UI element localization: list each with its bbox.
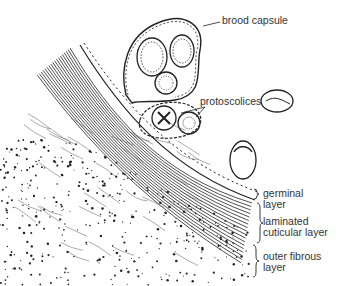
cell-dot <box>16 148 18 150</box>
host-tissue-cells <box>0 139 250 286</box>
cell-dot <box>112 245 114 247</box>
cell-dot <box>186 273 188 275</box>
cell-dot <box>157 228 159 230</box>
cell-dot <box>73 169 74 170</box>
cell-dot <box>186 239 188 241</box>
cell-dot <box>197 243 198 244</box>
cell-dot <box>87 189 90 192</box>
cell-dot <box>1 200 3 202</box>
cell-dot <box>213 213 215 215</box>
cell-dot <box>174 221 176 223</box>
cell-dot <box>39 221 41 223</box>
cell-dot <box>6 218 7 219</box>
cell-dot <box>213 272 215 274</box>
cell-dot <box>11 251 13 253</box>
cell-dot <box>166 191 168 193</box>
cell-dot <box>22 191 23 192</box>
protoscolices-leader <box>181 107 205 117</box>
cell-dot <box>0 224 1 225</box>
cell-dot <box>191 280 193 282</box>
cell-dot <box>6 209 8 211</box>
cell-dot <box>41 260 43 262</box>
cell-dot <box>53 196 55 198</box>
cell-dot <box>19 267 21 269</box>
cell-dot <box>199 218 201 220</box>
cell-dot <box>115 176 117 178</box>
cell-dot <box>104 222 105 223</box>
cell-dot <box>240 255 242 257</box>
cell-dot <box>56 183 58 185</box>
cell-dot <box>91 170 92 171</box>
cell-dot <box>186 235 188 237</box>
cell-dot <box>69 211 70 212</box>
cell-dot <box>36 212 37 213</box>
cell-dot <box>7 276 8 277</box>
cell-dot <box>13 267 16 270</box>
cell-dot <box>122 173 124 175</box>
cell-dot <box>157 193 158 194</box>
cell-dot <box>43 228 45 230</box>
cell-dot <box>202 217 203 218</box>
cell-dot <box>146 252 147 253</box>
cell-dot <box>86 244 87 245</box>
cell-dot <box>69 164 72 167</box>
cell-dot <box>188 205 190 207</box>
cell-dot <box>130 172 131 173</box>
cell-dot <box>125 250 127 252</box>
cell-dot <box>151 236 152 237</box>
cell-dot <box>27 183 28 184</box>
label-outer-fibrous-layer: outer fibrous layer <box>263 251 321 273</box>
cell-dot <box>42 255 44 257</box>
cell-dot <box>120 269 123 272</box>
cell-dot <box>109 194 111 196</box>
label-protoscolices: protoscolices <box>200 96 261 107</box>
cell-dot <box>26 169 28 171</box>
cell-dot <box>175 260 178 263</box>
cell-dot <box>99 181 100 182</box>
cell-dot <box>104 184 106 186</box>
cell-dot <box>198 247 199 248</box>
protoscolex <box>261 90 293 112</box>
cell-dot <box>131 258 132 259</box>
cell-dot <box>137 275 139 277</box>
cell-dot <box>116 252 119 255</box>
cell-dot <box>147 189 149 191</box>
cell-dot <box>104 156 106 158</box>
cell-dot <box>110 164 112 166</box>
cell-dot <box>32 165 34 167</box>
cell-dot <box>188 241 190 243</box>
cell-dot <box>58 227 60 229</box>
cell-dot <box>63 229 65 231</box>
cell-dot <box>132 216 135 219</box>
cell-dot <box>232 242 234 244</box>
cell-dot <box>10 148 13 151</box>
cell-dot <box>59 218 61 220</box>
cell-dot <box>100 235 102 237</box>
cell-dot <box>152 267 154 269</box>
cell-dot <box>214 257 215 258</box>
cell-dot <box>26 158 28 160</box>
cell-dot <box>66 251 68 253</box>
cell-dot <box>183 240 184 241</box>
cell-dot <box>161 189 162 190</box>
cell-dot <box>200 208 202 210</box>
cell-dot <box>96 176 98 178</box>
cell-dot <box>64 272 66 274</box>
cell-dot <box>61 157 63 159</box>
cell-dot <box>113 250 114 251</box>
cell-dot <box>26 198 27 199</box>
cell-dot <box>22 215 23 216</box>
fiber-line <box>50 134 72 145</box>
fiber-line <box>98 187 120 203</box>
cell-dot <box>203 221 204 222</box>
cell-dot <box>85 200 87 202</box>
cell-dot <box>217 225 219 227</box>
cell-dot <box>4 261 6 263</box>
cell-dot <box>70 161 72 163</box>
cell-dot <box>142 273 143 274</box>
cell-dot <box>135 174 136 175</box>
cell-dot <box>26 241 28 243</box>
cell-dot <box>218 245 220 247</box>
cell-dot <box>44 167 45 168</box>
cell-dot <box>123 201 124 202</box>
